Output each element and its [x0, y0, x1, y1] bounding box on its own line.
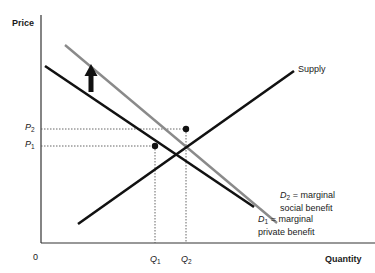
p2-subscript: 2: [31, 126, 35, 133]
d1-curve: [45, 66, 254, 207]
p1-subscript: 1: [31, 143, 35, 150]
p1-label: P1: [25, 139, 35, 152]
d2-curve: [65, 45, 277, 223]
up-arrow-icon: [85, 64, 98, 92]
d2-label-line2: social benefit: [280, 203, 333, 213]
diagram-canvas: [0, 0, 375, 273]
equilibrium-social-point: [183, 126, 189, 132]
q1-subscript: 1: [157, 258, 161, 265]
q2-symbol: Q: [181, 254, 188, 264]
d2-label: D2 = marginal social benefit: [280, 190, 335, 213]
p2-label: P2: [25, 122, 35, 135]
y-axis-label: Price: [12, 18, 34, 28]
origin-label: 0: [33, 252, 38, 262]
q1-label: Q1: [150, 254, 161, 267]
d2-label-line1: = marginal: [290, 190, 335, 200]
d1-label-line1: = marginal: [268, 214, 313, 224]
q2-subscript: 2: [188, 258, 192, 265]
equilibrium-private-point: [152, 143, 158, 149]
x-axis-label: Quantity: [325, 254, 362, 264]
d1-label-line2: private benefit: [258, 227, 315, 237]
q2-label: Q2: [181, 254, 192, 267]
supply-label: Supply: [298, 64, 326, 74]
d1-label: D1 = marginal private benefit: [258, 214, 315, 237]
q1-symbol: Q: [150, 254, 157, 264]
